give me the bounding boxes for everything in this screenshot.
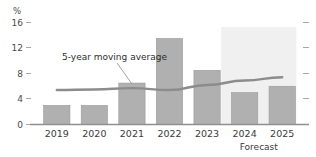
y-tick-label-0: 0	[17, 120, 23, 130]
y-tick-label-16: 16	[12, 18, 24, 28]
x-tick-label-2024: 2024	[233, 128, 257, 139]
bar-2025	[269, 86, 295, 124]
bar-2023	[194, 70, 220, 124]
x-tick-label-2025: 2025	[270, 128, 294, 139]
x-tick-label-2023: 2023	[195, 128, 219, 139]
annotation-leader-line	[117, 63, 132, 84]
x-tick-label-2019: 2019	[45, 128, 69, 139]
y-axis-unit-label: %	[13, 6, 21, 16]
x-tick-label-2022: 2022	[157, 128, 181, 139]
bar-2020	[81, 105, 107, 124]
x-tick-label-2020: 2020	[82, 128, 106, 139]
left-tick-marks	[26, 23, 31, 125]
bar-chart: % 16 12 8 4 0 5-year moving average 2019…	[0, 0, 316, 157]
y-tick-label-4: 4	[17, 94, 23, 104]
x-tick-label-2021: 2021	[120, 128, 144, 139]
moving-average-annotation-label: 5-year moving average	[62, 52, 167, 62]
bar-2024	[231, 93, 257, 125]
forecast-label: Forecast	[240, 142, 279, 152]
right-tick-marks	[303, 23, 309, 125]
y-tick-label-12: 12	[12, 43, 23, 53]
bar-2019	[44, 105, 70, 124]
y-tick-label-8: 8	[17, 69, 23, 79]
chart-container: % 16 12 8 4 0 5-year moving average 2019…	[0, 0, 316, 157]
